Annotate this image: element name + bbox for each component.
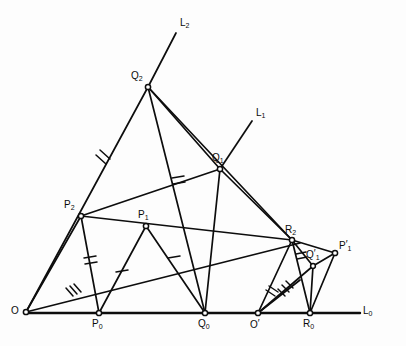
line-Q1-Q0 — [205, 169, 220, 313]
tick-Q2-Q0 — [172, 176, 185, 184]
label-Q2: Q2 — [131, 71, 143, 82]
vertex-O — [23, 309, 28, 314]
label-P1prime-sub: 1 — [348, 245, 352, 252]
label-Q1-text: Q — [212, 152, 220, 163]
label-L2-sub: 2 — [186, 22, 190, 29]
vertex-Q2 — [145, 84, 150, 89]
geometry-figure: L2 L1 L0 O P0 Q0 O′ R0 P2 P1 Q2 Q1 R2 Q′… — [0, 0, 406, 346]
tick-P0-P1 — [116, 270, 128, 272]
line-P2-P0 — [81, 216, 99, 313]
tick-Oprime-R2 — [266, 286, 278, 296]
label-Q0-sub: 0 — [206, 323, 210, 330]
tick-P2-P0 — [84, 256, 97, 264]
vertex-P0 — [96, 310, 101, 315]
label-L1-sub: 1 — [262, 112, 266, 119]
line-P0-P1 — [99, 226, 146, 313]
diagram-canvas — [0, 0, 406, 346]
label-L0-sub: 0 — [369, 310, 373, 317]
label-P0-sub: 0 — [99, 323, 103, 330]
line-R2-Oprime — [258, 240, 292, 313]
vertex-P1 — [143, 223, 148, 228]
label-P1prime-text: P — [339, 240, 346, 251]
tick-P1-Q0 — [168, 256, 180, 258]
label-Oprime-text: O — [250, 319, 258, 330]
vertex-Oprime — [255, 310, 260, 315]
vertex-Q1 — [217, 166, 222, 171]
label-P1: P1 — [138, 210, 149, 221]
tick-O-P1 — [66, 284, 81, 296]
line-O-P1-R2ext — [26, 243, 300, 312]
label-Q1prime: Q′1 — [306, 249, 320, 261]
vertex-R2 — [289, 237, 294, 242]
line-Q1-R2 — [220, 169, 292, 240]
label-P0-text: P — [92, 318, 99, 329]
label-L2: L2 — [180, 18, 189, 29]
label-Q2-text: Q — [131, 70, 139, 81]
label-P2: P2 — [64, 200, 75, 211]
label-R0: R0 — [303, 319, 314, 330]
line-Oprime-extra — [258, 280, 300, 313]
label-R0-sub: 0 — [310, 323, 314, 330]
vertex-Q1prime — [311, 264, 316, 269]
label-P0: P0 — [92, 319, 103, 330]
line-Q1-L1tip — [220, 121, 252, 169]
label-O: O — [11, 306, 19, 316]
vertex-P1prime — [332, 250, 337, 255]
label-L0: L0 — [363, 306, 372, 317]
label-Q1-sub: 1 — [220, 157, 224, 164]
label-P1-sub: 1 — [145, 214, 149, 221]
label-Oprime: O′ — [250, 319, 260, 330]
label-P1-text: P — [138, 209, 145, 220]
label-O-text: O — [11, 305, 19, 316]
label-Q1prime-sub: 1 — [316, 254, 320, 261]
label-Oprime-prime: ′ — [258, 318, 260, 329]
label-P1prime: P′1 — [339, 240, 351, 252]
vertex-P2 — [78, 213, 83, 218]
label-L1: L1 — [256, 108, 265, 119]
label-R2-sub: 2 — [292, 229, 296, 236]
vertex-Q0 — [202, 310, 207, 315]
line-Q1-P2 — [81, 169, 220, 216]
label-R2: R2 — [285, 225, 296, 236]
label-Q0: Q0 — [198, 319, 210, 330]
label-P2-sub: 2 — [71, 204, 75, 211]
label-Q0-text: Q — [198, 318, 206, 329]
label-Q1: Q1 — [212, 153, 224, 164]
line-P1prime-R0 — [310, 253, 335, 313]
label-Q2-sub: 2 — [139, 75, 143, 82]
vertex-R0 — [307, 310, 312, 315]
label-Q1prime-text: Q — [306, 249, 314, 260]
line-Q2-L2tip — [148, 33, 176, 87]
line-O-P2 — [26, 216, 81, 312]
label-P2-text: P — [64, 199, 71, 210]
